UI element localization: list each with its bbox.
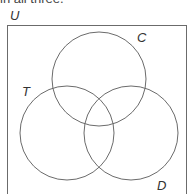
set-c-label: C — [137, 30, 147, 45]
set-t-label: T — [22, 84, 31, 99]
set-c-circle — [52, 32, 146, 126]
venn-diagram: U C T D — [0, 0, 190, 194]
universe-label: U — [10, 8, 20, 23]
set-t-circle — [20, 86, 114, 180]
set-d-circle — [84, 86, 178, 180]
set-d-label: D — [157, 178, 166, 193]
